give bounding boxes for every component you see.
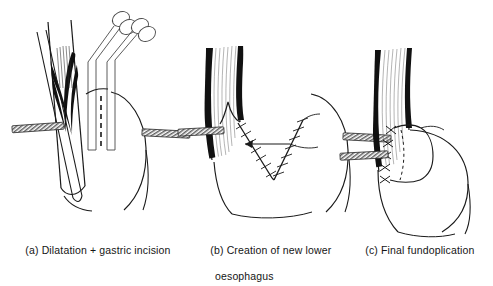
caption-b-line2: oesophagus <box>198 270 331 283</box>
caption-a-text: (a) Dilatation + gastric incision <box>25 244 170 256</box>
caption-panel-b: (b) Creation of new lower oesophagus <box>198 231 331 286</box>
caption-b-line1: (b) Creation of new lower <box>210 244 331 256</box>
caption-c-text: (c) Final fundoplication <box>365 244 474 256</box>
caption-panel-a: (a) Dilatation + gastric incision <box>13 231 171 270</box>
caption-panel-c: (c) Final fundoplication <box>353 231 475 270</box>
